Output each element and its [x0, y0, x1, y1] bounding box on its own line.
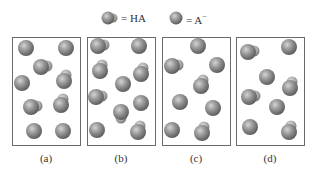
ha-molecule-icon	[88, 89, 108, 105]
a-minus-ion-icon	[242, 119, 258, 135]
ha-molecule-icon	[133, 63, 149, 83]
diagram-canvas	[0, 0, 314, 172]
a-minus-ion-icon	[26, 123, 42, 139]
ha-molecule-icon	[193, 75, 209, 95]
ha-molecule-icon	[113, 104, 129, 124]
legend-a-superscript: −	[202, 12, 207, 21]
legend-ha-icon	[102, 12, 118, 25]
a-minus-ion-icon	[259, 69, 275, 85]
ha-molecule-icon	[92, 60, 108, 80]
a-minus-ion-icon	[131, 38, 147, 54]
panel-label-d: (d)	[250, 153, 290, 164]
ha-molecule-icon	[53, 94, 69, 114]
a-minus-ion-icon	[18, 40, 34, 56]
a-minus-ion-icon	[55, 123, 71, 139]
a-minus-ion-icon	[205, 100, 221, 116]
a-minus-ion-icon	[281, 39, 297, 55]
legend-ha-label: = HA	[121, 13, 146, 24]
legend-a-minus-label: = A−	[186, 13, 207, 26]
a-minus-ion-icon	[269, 99, 285, 115]
a-minus-ion-icon	[172, 94, 188, 110]
legend-a-text: = A	[186, 14, 202, 26]
ha-molecule-icon	[194, 122, 210, 142]
ha-molecule-icon	[281, 121, 297, 141]
ha-molecule-icon	[282, 77, 298, 97]
ha-molecule-icon	[240, 44, 260, 60]
ha-molecule-icon	[164, 58, 184, 74]
a-minus-ion-icon	[133, 95, 149, 111]
ha-molecule-icon	[130, 121, 146, 141]
a-minus-ion-icon	[115, 76, 131, 92]
ha-molecule-icon	[56, 70, 72, 90]
a-minus-ion-icon	[164, 122, 180, 138]
a-minus-ion-icon	[209, 57, 225, 73]
legend-a-minus-icon	[170, 12, 183, 25]
panel-label-a: (a)	[26, 153, 66, 164]
panel-label-b: (b)	[101, 153, 141, 164]
ha-molecule-icon	[33, 59, 53, 75]
panel-label-c: (c)	[176, 153, 216, 164]
a-minus-ion-icon	[89, 122, 105, 138]
ha-molecule-icon	[23, 99, 43, 115]
a-minus-ion-icon	[14, 75, 30, 91]
ha-molecule-icon	[90, 38, 110, 54]
a-minus-ion-icon	[190, 38, 206, 54]
a-minus-ion-icon	[58, 40, 74, 56]
ha-molecule-icon	[241, 89, 261, 105]
